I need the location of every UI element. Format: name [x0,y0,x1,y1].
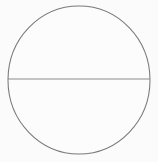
circle-diagram-svg [0,0,158,162]
circle-outline [8,6,150,154]
figure-canvas: A thin gray circle outline divided into … [0,0,158,162]
